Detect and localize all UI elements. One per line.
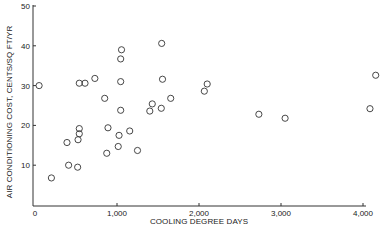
data-point-marker <box>118 47 124 53</box>
data-point-marker <box>104 150 110 156</box>
y-tick-label: 10 <box>21 161 30 170</box>
data-point-marker <box>127 128 133 134</box>
data-point-marker <box>75 137 81 143</box>
data-point-marker <box>92 75 98 81</box>
data-point-marker <box>149 101 155 107</box>
x-axis-title: COOLING DEGREE DAYS <box>150 217 248 226</box>
y-tick-label: 30 <box>21 82 30 91</box>
x-tick-label: 1,000 <box>107 209 128 218</box>
y-tick-label: 20 <box>21 121 30 130</box>
data-point-marker <box>134 147 140 153</box>
data-point-marker <box>75 164 81 170</box>
data-point-marker <box>64 139 70 145</box>
data-point-marker <box>82 80 88 86</box>
data-point-marker <box>201 88 207 94</box>
data-point-marker <box>282 115 288 121</box>
data-point-marker <box>76 80 82 86</box>
data-point-marker <box>147 108 153 114</box>
data-point-marker <box>168 95 174 101</box>
y-tick-label: 40 <box>21 42 30 51</box>
data-point-marker <box>373 72 379 78</box>
data-point-marker <box>367 106 373 112</box>
x-tick-label: 4,000 <box>353 209 374 218</box>
data-point-marker <box>118 56 124 62</box>
scatter-chart: 01,0002,0003,0004,000 1020304050 COOLING… <box>0 0 389 232</box>
data-point-marker <box>115 143 121 149</box>
axes <box>33 5 366 206</box>
y-axis-title: AIR CONDITIONING COST, CENTS/SQ FT/YR <box>5 26 14 199</box>
data-point-marker <box>118 79 124 85</box>
data-point-marker <box>102 95 108 101</box>
y-tick-label: 50 <box>21 2 30 11</box>
x-tick-label: 0 <box>33 209 38 218</box>
data-point-marker <box>36 83 42 89</box>
data-point-marker <box>256 111 262 117</box>
x-axis-ticks: 01,0002,0003,0004,000 <box>33 203 374 218</box>
data-points <box>36 40 379 181</box>
data-point-marker <box>159 76 165 82</box>
data-point-marker <box>159 40 165 46</box>
x-tick-label: 3,000 <box>271 209 292 218</box>
data-point-marker <box>204 81 210 87</box>
data-point-marker <box>105 125 111 131</box>
data-point-marker <box>116 132 122 138</box>
data-point-marker <box>48 175 54 181</box>
data-point-marker <box>158 105 164 111</box>
data-point-marker <box>66 162 72 168</box>
y-axis-ticks: 1020304050 <box>21 2 36 170</box>
data-point-marker <box>118 107 124 113</box>
